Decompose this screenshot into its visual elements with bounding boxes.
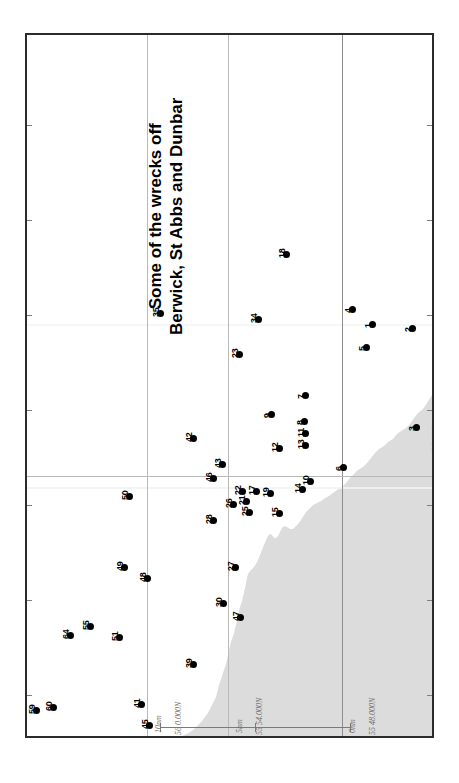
wreck-label: 51 — [110, 631, 120, 641]
wreck-label: 41 — [132, 698, 142, 708]
frame-tick-left-5 — [27, 505, 32, 506]
wreck-label: 23 — [230, 348, 240, 358]
scale-label-10nm: 10nm — [154, 715, 163, 733]
wreck-label: 4 — [343, 308, 353, 313]
coastline-landmass — [27, 35, 432, 736]
wreck-label: 45 — [140, 719, 150, 729]
wreck-label: 35 — [151, 307, 161, 317]
chart-plot-surface: Some of the wrecks off Berwick, St Abbs … — [27, 35, 432, 736]
wreck-label: 9 — [262, 413, 272, 418]
graticule-line-55-54N — [228, 35, 229, 736]
chart-title-line-1: Some of the wrecks off — [145, 98, 166, 335]
wreck-label: 6 — [334, 466, 344, 471]
wreck-label: 7 — [296, 394, 306, 399]
wreck-label: 14 — [293, 483, 303, 493]
wreck-label: 43 — [213, 458, 223, 468]
frame-tick-right-2 — [427, 220, 432, 221]
wreck-label: 46 — [204, 472, 214, 482]
coordinate-label-2-00W: 2 0.000W — [431, 421, 432, 452]
wreck-label: 42 — [184, 432, 194, 442]
wreck-label: 59 — [27, 704, 37, 714]
wreck-label: 50 — [120, 490, 130, 500]
wreck-label: 11 — [296, 428, 306, 437]
frame-tick-right-7 — [427, 695, 432, 696]
wreck-label: 1 — [363, 323, 373, 328]
wreck-label: 49 — [115, 561, 125, 571]
scale-bar-tick-5nm — [255, 723, 256, 732]
wreck-label: 25 — [240, 506, 250, 516]
frame-tick-right-3 — [427, 315, 432, 316]
wreck-label: 39 — [184, 658, 194, 668]
frame-tick-left-2 — [27, 220, 32, 221]
frame-tick-right-1 — [427, 125, 432, 126]
frame-tick-left-1 — [27, 125, 32, 126]
frame-tick-right-4 — [427, 410, 432, 411]
wreck-label: 21 — [237, 495, 247, 505]
wreck-label: 3 — [407, 426, 417, 431]
wreck-label: 64 — [61, 629, 71, 639]
coordinate-label-55-54N: 55 54.000N — [255, 698, 264, 735]
nautical-chart-frame: Some of the wrecks off Berwick, St Abbs … — [25, 33, 434, 738]
wreck-label: 30 — [214, 597, 224, 607]
wreck-label: 34 — [249, 313, 259, 323]
wreck-label: 48 — [138, 572, 148, 582]
scale-label-5nm: 5nm — [235, 719, 244, 733]
scale-label-0nm: 0nm — [348, 719, 357, 733]
scale-bar — [160, 727, 350, 728]
wreck-label: 2 — [403, 327, 413, 332]
frame-tick-right-6 — [427, 600, 432, 601]
wreck-label: 22 — [233, 485, 243, 495]
wreck-label: 18 — [277, 248, 287, 258]
frame-tick-right-5 — [427, 505, 432, 506]
frame-tick-left-7 — [27, 695, 32, 696]
wreck-label: 27 — [226, 561, 236, 571]
wreck-label: 13 — [296, 439, 306, 449]
frame-tick-left-4 — [27, 410, 32, 411]
wreck-label: 8 — [295, 420, 305, 425]
wreck-label: 60 — [44, 701, 54, 711]
wreck-label: 26 — [224, 498, 234, 508]
wreck-label: 28 — [204, 514, 214, 524]
wreck-label: 55 — [81, 620, 91, 630]
wreck-label: 47 — [231, 611, 241, 621]
wreck-label: 15 — [270, 507, 280, 517]
chart-title: Some of the wrecks off Berwick, St Abbs … — [145, 98, 188, 335]
wreck-label: 5 — [357, 346, 367, 351]
coordinate-label-56-00N: 56 0.000N — [174, 702, 183, 735]
frame-tick-left-3 — [27, 315, 32, 316]
wreck-label: 19 — [261, 487, 271, 497]
coordinate-label-55-48N: 55 48.000N — [368, 698, 377, 735]
frame-tick-left-6 — [27, 600, 32, 601]
chart-title-line-2: Berwick, St Abbs and Dunbar — [166, 98, 187, 335]
wreck-label: 17 — [247, 485, 257, 495]
graticule-line-2-00W — [27, 476, 432, 477]
graticule-line-55-48N — [342, 35, 343, 736]
wreck-label: 12 — [270, 442, 280, 452]
